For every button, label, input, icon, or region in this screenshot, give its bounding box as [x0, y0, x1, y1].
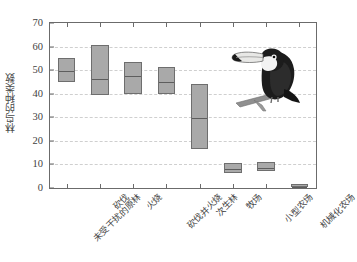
range-box-1	[91, 45, 108, 95]
y-tick-mark-0	[50, 188, 54, 189]
y-tick-label-0: 0	[17, 182, 43, 193]
x-axis-label-5: 牧场	[244, 192, 264, 212]
range-box-4	[191, 84, 208, 149]
gridline-y-30	[50, 117, 316, 118]
range-box-5	[224, 163, 241, 172]
range-box-0	[58, 58, 75, 82]
x-tick-mark-1	[100, 184, 101, 188]
x-axis-label-6: 小型农场	[283, 192, 316, 225]
x-tick-mark-top-3	[166, 23, 167, 27]
plot-area	[49, 22, 317, 189]
x-tick-mark-top-7	[299, 23, 300, 27]
y-tick-label-60: 60	[17, 40, 43, 51]
gridline-y-50	[50, 70, 316, 71]
range-box-6	[257, 162, 274, 171]
y-tick-label-10: 10	[17, 158, 43, 169]
x-tick-mark-top-2	[133, 23, 134, 27]
x-tick-mark-top-6	[266, 23, 267, 27]
x-tick-mark-0	[67, 184, 68, 188]
x-axis-label-2: 火烧	[144, 192, 164, 212]
x-tick-mark-2	[133, 184, 134, 188]
range-box-7	[291, 184, 308, 186]
y-tick-mark-40	[50, 93, 54, 94]
plot-inner	[50, 23, 316, 188]
y-tick-mark-70	[50, 23, 54, 24]
median-line-7	[292, 187, 307, 188]
y-tick-label-30: 30	[17, 111, 43, 122]
range-box-2	[124, 62, 141, 94]
y-tick-label-40: 40	[17, 87, 43, 98]
median-line-0	[59, 71, 74, 72]
gridline-y-10	[50, 164, 316, 165]
median-line-6	[258, 168, 273, 169]
x-tick-mark-top-4	[200, 23, 201, 27]
gridline-y-40	[50, 94, 316, 95]
median-line-2	[125, 76, 140, 77]
median-line-5	[225, 169, 240, 170]
y-tick-label-20: 20	[17, 134, 43, 145]
y-tick-label-70: 70	[17, 17, 43, 28]
y-axis-title: 林鸟的种类数	[2, 38, 20, 168]
y-tick-mark-10	[50, 164, 54, 165]
gridline-y-60	[50, 47, 316, 48]
x-axis-label-7: 机械化农场	[319, 192, 357, 231]
y-tick-mark-50	[50, 70, 54, 71]
x-tick-mark-top-1	[100, 23, 101, 27]
median-line-4	[192, 118, 207, 119]
gridline-y-20	[50, 141, 316, 142]
median-line-3	[159, 82, 174, 83]
x-tick-mark-6	[266, 184, 267, 188]
y-tick-mark-60	[50, 46, 54, 47]
y-tick-label-50: 50	[17, 64, 43, 75]
x-tick-mark-top-0	[67, 23, 68, 27]
x-tick-mark-4	[200, 184, 201, 188]
x-tick-mark-top-5	[233, 23, 234, 27]
median-line-1	[92, 79, 107, 80]
x-tick-mark-3	[166, 184, 167, 188]
y-tick-mark-20	[50, 140, 54, 141]
x-tick-mark-5	[233, 184, 234, 188]
y-tick-mark-30	[50, 117, 54, 118]
range-box-3	[158, 67, 175, 94]
